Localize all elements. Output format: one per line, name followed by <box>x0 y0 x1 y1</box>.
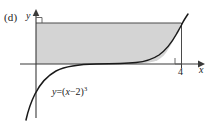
y-axis-label: y <box>26 10 30 21</box>
panel-label: (d) <box>4 11 17 23</box>
y-axis-arrowhead <box>33 9 40 16</box>
right-angle-marker-top-left <box>36 18 42 24</box>
curve-equation: y=(x−2)3 <box>52 85 87 97</box>
shaded-region <box>36 23 181 64</box>
x-tick-label-4: 4 <box>178 66 183 77</box>
x-axis-label: x <box>199 64 203 75</box>
equation-exponent: 3 <box>84 85 87 92</box>
right-angle-marker-bottom-right <box>175 58 182 64</box>
graph-canvas <box>0 0 209 121</box>
equation-minus-two: −2) <box>70 86 84 97</box>
